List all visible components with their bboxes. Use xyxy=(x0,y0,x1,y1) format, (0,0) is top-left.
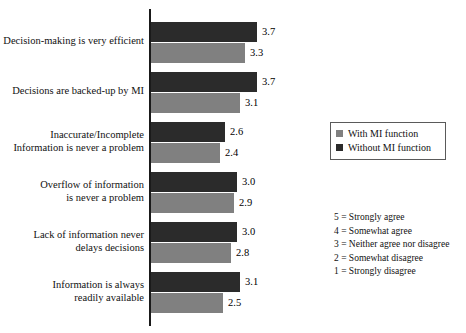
bar-chart: Decision-making is very efficient3.73.3D… xyxy=(0,0,466,333)
bar-value-label: 2.9 xyxy=(239,196,252,210)
category-label: Lack of information never delays decisio… xyxy=(0,221,144,254)
bar-value-label: 3.3 xyxy=(250,46,263,60)
bar xyxy=(151,272,240,292)
scale-key-line: 1 = Strongly disagree xyxy=(334,265,466,279)
bar-value-label: 3.1 xyxy=(245,275,258,289)
legend-item-label: Without MI function xyxy=(348,142,431,154)
bar xyxy=(151,72,257,92)
category-label: Inaccurate/Incomplete Information is nev… xyxy=(0,121,144,154)
bar-value-label: 2.5 xyxy=(228,296,241,310)
bar-value-label: 3.7 xyxy=(262,25,275,39)
legend-item-with-mi: With MI function xyxy=(336,127,440,140)
scale-key: 5 = Strongly agree 4 = Somewhat agree 3 … xyxy=(334,211,466,279)
bar-value-label: 2.8 xyxy=(236,246,249,260)
bar-group: Overflow of information is never a probl… xyxy=(0,171,320,215)
bar xyxy=(151,243,231,263)
scale-key-line: 5 = Strongly agree xyxy=(334,211,466,225)
category-label: Information is always readily available xyxy=(0,271,144,304)
bar xyxy=(151,43,245,63)
category-label: Decisions are backed-up by MI xyxy=(0,71,144,98)
bar xyxy=(151,222,237,242)
bar xyxy=(151,143,220,163)
legend-swatch-icon xyxy=(336,130,343,137)
series-legend: With MI function Without MI function xyxy=(330,122,446,160)
bar-group: Lack of information never delays decisio… xyxy=(0,221,320,265)
bar-group: Decision-making is very efficient3.73.3 xyxy=(0,21,320,65)
bar xyxy=(151,293,223,313)
bar-value-label: 3.0 xyxy=(242,225,255,239)
bar-value-label: 2.4 xyxy=(225,146,238,160)
bar-group: Decisions are backed-up by MI3.73.1 xyxy=(0,71,320,115)
category-label: Decision-making is very efficient xyxy=(0,21,144,48)
category-label: Overflow of information is never a probl… xyxy=(0,171,144,204)
bar xyxy=(151,93,240,113)
bar-value-label: 3.1 xyxy=(245,96,258,110)
bar-group: Inaccurate/Incomplete Information is nev… xyxy=(0,121,320,165)
bar xyxy=(151,193,234,213)
bar-value-label: 3.7 xyxy=(262,75,275,89)
legend-item-without-mi: Without MI function xyxy=(336,141,440,154)
scale-key-line: 2 = Somewhat disagree xyxy=(334,252,466,266)
bar xyxy=(151,172,237,192)
legend-swatch-icon xyxy=(336,144,343,151)
bar-group: Information is always readily available3… xyxy=(0,271,320,315)
bar-value-label: 2.6 xyxy=(230,125,243,139)
scale-key-line: 4 = Somewhat agree xyxy=(334,225,466,239)
plot-area: Decision-making is very efficient3.73.3D… xyxy=(0,0,320,333)
scale-key-line: 3 = Neither agree nor disagree xyxy=(334,238,466,252)
legend-item-label: With MI function xyxy=(348,128,418,140)
bar-value-label: 3.0 xyxy=(242,175,255,189)
bar xyxy=(151,22,257,42)
bar xyxy=(151,122,225,142)
